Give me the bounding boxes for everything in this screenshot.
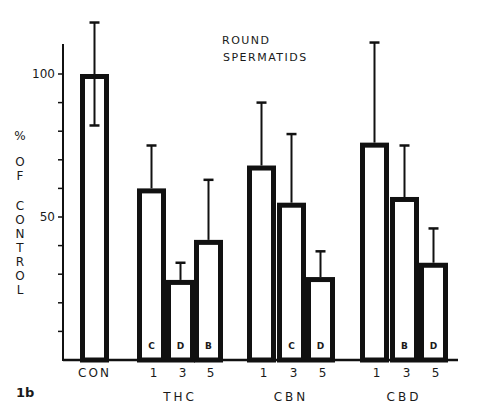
y-tick-label: 50 bbox=[40, 210, 55, 224]
y-axis-label-char: C bbox=[16, 199, 24, 213]
x-tick-label: 5 bbox=[207, 366, 215, 380]
x-tick-label: 5 bbox=[432, 366, 440, 380]
significance-letter: D bbox=[177, 341, 184, 351]
y-axis-label-char: O bbox=[15, 155, 24, 169]
group-label: CBD bbox=[387, 390, 422, 404]
x-tick-label: 3 bbox=[179, 366, 187, 380]
y-axis-label-char: T bbox=[15, 241, 24, 255]
bar bbox=[250, 168, 274, 360]
significance-letter: B bbox=[205, 341, 212, 351]
group-label: THC bbox=[162, 390, 197, 404]
significance-letter: B bbox=[401, 341, 408, 351]
axes bbox=[58, 44, 458, 361]
bar bbox=[140, 191, 164, 360]
x-tick-label: 1 bbox=[150, 366, 158, 380]
labels: 50100%OFCONTROLROUNDSPERMATIDSCDBCDBDCON… bbox=[14, 34, 439, 404]
chart-title-line: ROUND bbox=[222, 34, 271, 47]
x-tick-label: 1 bbox=[373, 366, 381, 380]
group-label: CBN bbox=[274, 390, 309, 404]
x-tick-label: CON bbox=[78, 366, 111, 380]
bar-chart: 50100%OFCONTROLROUNDSPERMATIDSCDBCDBDCON… bbox=[0, 0, 477, 420]
chart-title-line: SPERMATIDS bbox=[223, 51, 308, 64]
y-tick-label: 100 bbox=[32, 67, 55, 81]
significance-letter: C bbox=[288, 341, 295, 351]
y-axis-label-char: % bbox=[14, 129, 25, 143]
y-axis-label-char: O bbox=[15, 269, 24, 283]
x-tick-label: 3 bbox=[403, 366, 411, 380]
bars bbox=[83, 23, 446, 360]
x-tick-label: 1 bbox=[260, 366, 268, 380]
significance-letter: C bbox=[148, 341, 155, 351]
x-tick-label: 3 bbox=[290, 366, 298, 380]
y-axis-label-char: O bbox=[15, 213, 24, 227]
x-tick-label: 5 bbox=[319, 366, 327, 380]
y-axis-label-char: L bbox=[17, 283, 24, 297]
bar bbox=[393, 199, 417, 360]
bar bbox=[363, 145, 387, 360]
y-axis-label-char: F bbox=[17, 169, 24, 183]
y-axis-label-char: R bbox=[16, 255, 24, 269]
significance-letter: D bbox=[430, 341, 437, 351]
bar bbox=[280, 205, 304, 360]
y-axis-label-char: N bbox=[16, 227, 25, 241]
panel-label: 1b bbox=[16, 385, 34, 400]
significance-letter: D bbox=[317, 341, 324, 351]
